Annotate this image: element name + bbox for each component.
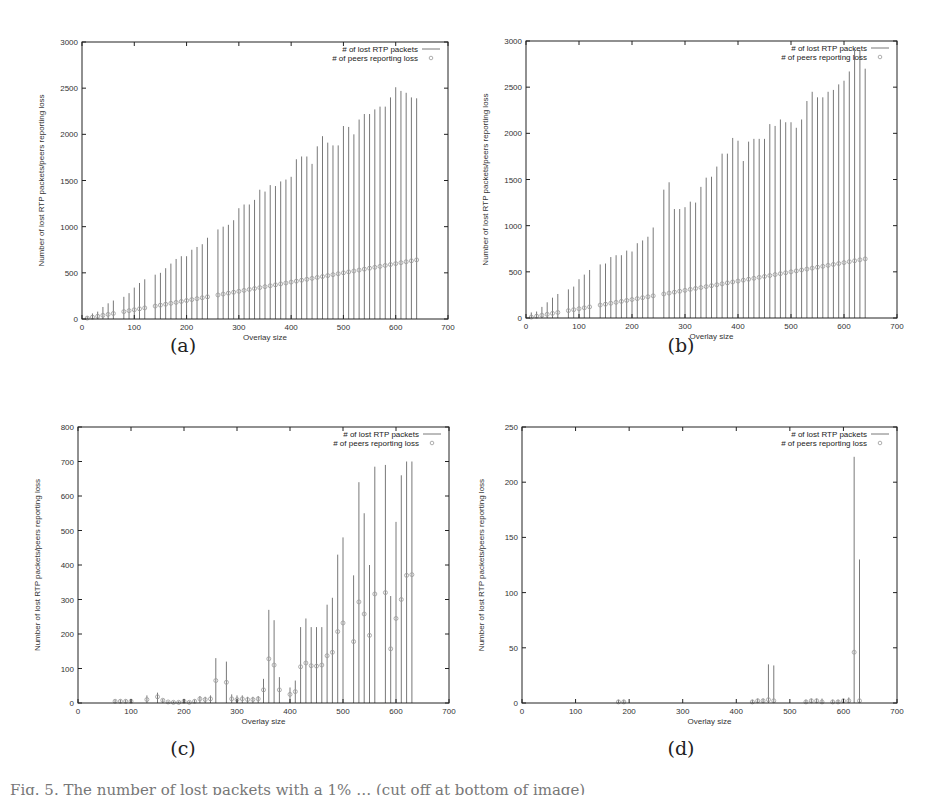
y-tick-label: 200 <box>505 478 519 487</box>
panel-label-c: (c) <box>153 737 213 759</box>
chart-svg-d: 0100200300400500600700050100150200250Ove… <box>0 0 938 795</box>
plot-frame <box>522 427 897 703</box>
panel-label-b: (b) <box>651 334 711 356</box>
x-tick-label: 0 <box>520 707 525 716</box>
y-tick-label: 50 <box>509 644 518 653</box>
figure-caption-partial: Fig. 5. The number of lost packets with … <box>0 781 938 795</box>
x-tick-label: 400 <box>730 707 744 716</box>
legend-circle-icon <box>878 441 882 445</box>
errorbar-series <box>618 457 859 703</box>
legend-label-lost-packets: # of lost RTP packets <box>791 430 867 439</box>
x-tick-label: 500 <box>783 707 797 716</box>
y-tick-label: 150 <box>505 533 519 542</box>
x-tick-label: 200 <box>622 707 636 716</box>
y-axis-title: Number of lost RTP packets/peers reporti… <box>477 479 486 651</box>
x-axis-title: Overlay size <box>687 717 732 726</box>
y-tick-label: 0 <box>514 699 519 708</box>
y-tick-label: 250 <box>505 423 519 432</box>
panel-label-a: (a) <box>153 334 213 356</box>
x-tick-label: 700 <box>890 707 904 716</box>
x-tick-label: 100 <box>569 707 583 716</box>
peers-points-series <box>616 650 861 704</box>
x-tick-label: 300 <box>676 707 690 716</box>
legend-label-peers: # of peers reporting loss <box>781 439 867 448</box>
y-tick-label: 100 <box>505 589 519 598</box>
panel-label-d: (d) <box>651 737 711 759</box>
x-tick-label: 600 <box>837 707 851 716</box>
legend: # of lost RTP packets# of peers reportin… <box>781 430 889 448</box>
